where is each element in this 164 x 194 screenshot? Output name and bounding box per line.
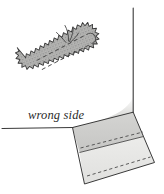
patch-zigzag-body — [12, 15, 103, 78]
sewing-diagram-figure: wrong side — [0, 0, 164, 194]
zigzag-patch-group — [12, 15, 103, 78]
fabric-edge-horizontal — [2, 128, 73, 129]
wrong-side-label: wrong side — [28, 108, 85, 122]
hem-corner-group — [73, 36, 155, 184]
diagram-canvas: wrong side — [0, 0, 164, 194]
